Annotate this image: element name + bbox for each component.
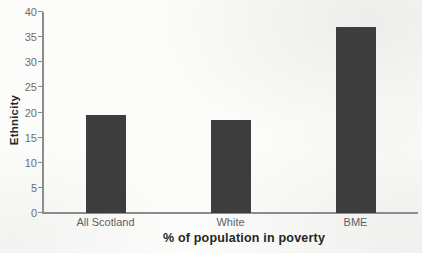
y-tick-label: 20 xyxy=(8,107,37,119)
x-axis-title: % of population in poverty xyxy=(94,231,394,245)
category-label: All Scotland xyxy=(51,216,161,228)
y-tick-label: 10 xyxy=(8,157,37,169)
category-label: BME xyxy=(301,216,411,228)
y-tick-label: 30 xyxy=(8,56,37,68)
y-tick-mark xyxy=(38,187,43,188)
bar-bme xyxy=(336,27,376,213)
y-tick-mark xyxy=(38,137,43,138)
y-tick-mark xyxy=(38,36,43,37)
bar-white xyxy=(211,120,251,213)
y-tick-mark xyxy=(38,212,43,213)
y-tick-label: 5 xyxy=(8,182,37,194)
y-axis-line xyxy=(42,12,44,213)
y-tick-mark xyxy=(38,11,43,12)
bar-chart-figure: Ethnicity 0510152025303540 All ScotlandW… xyxy=(0,0,422,253)
y-tick-mark xyxy=(38,112,43,113)
y-tick-label: 40 xyxy=(8,6,37,18)
category-label: White xyxy=(176,216,286,228)
y-tick-mark xyxy=(38,86,43,87)
y-tick-label: 15 xyxy=(8,132,37,144)
y-tick-mark xyxy=(38,61,43,62)
y-tick-mark xyxy=(38,162,43,163)
y-tick-label: 0 xyxy=(8,207,37,219)
y-tick-label: 25 xyxy=(8,81,37,93)
y-tick-label: 35 xyxy=(8,31,37,43)
bar-all-scotland xyxy=(86,115,126,213)
